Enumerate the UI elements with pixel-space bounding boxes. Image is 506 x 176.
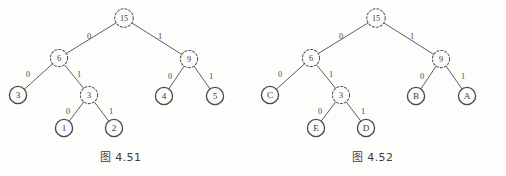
- edge-label-m6-m3: 1: [329, 70, 333, 79]
- edge-label-n15-n6: 0: [87, 32, 91, 41]
- edge-label-n9-n4: 0: [168, 72, 172, 81]
- edge-label-n3b-n2: 1: [109, 107, 113, 116]
- tree-node-label-m15: 15: [372, 14, 380, 23]
- tree-edge-n15-n9: [132, 23, 181, 54]
- tree-node-label-mD: D: [363, 123, 370, 133]
- tree-edge-m9-mA: [446, 66, 462, 88]
- tree-node-label-n3b: 3: [87, 91, 91, 100]
- edge-label-n15-n9: 1: [158, 32, 162, 41]
- edge-label-m15-m9: 1: [410, 32, 414, 41]
- tree-node-label-mC: C: [267, 90, 273, 100]
- binary-tree-diagram-layer: 010101011569334512010101011569C3BAED: [0, 0, 506, 176]
- edge-label-m9-mA: 1: [461, 72, 465, 81]
- edge-label-m9-mB: 0: [420, 72, 424, 81]
- edge-label-m6-mC: 0: [278, 70, 282, 79]
- tree-node-label-n6: 6: [57, 54, 61, 63]
- tree-edge-m3-mE: [321, 102, 335, 121]
- tree-figure-4-51: 010101011569334512: [9, 9, 223, 137]
- figure-canvas: 010101011569334512010101011569C3BAED 图 4…: [0, 0, 506, 176]
- tree-edge-m15-m6: [319, 23, 368, 53]
- tree-edge-m3-mD: [346, 102, 360, 121]
- tree-node-label-m9: 9: [439, 55, 443, 64]
- tree-node-label-mA: A: [464, 91, 471, 101]
- tree-node-label-n1: 1: [62, 123, 67, 133]
- edge-label-n6-n3a: 0: [26, 70, 30, 79]
- tree-node-label-mB: B: [413, 91, 419, 101]
- tree-figure-4-52: 010101011569C3BAED: [261, 9, 475, 137]
- tree-edge-n3b-n1: [69, 102, 83, 121]
- edge-label-n3b-n1: 0: [66, 107, 70, 116]
- tree-node-label-n5: 5: [213, 91, 218, 101]
- tree-node-label-n15: 15: [120, 14, 128, 23]
- tree-node-label-m3: 3: [339, 91, 343, 100]
- tree-edge-n15-n6: [67, 23, 116, 53]
- tree-node-label-m6: 6: [309, 54, 313, 63]
- caption-text-4-52: 图 4.52: [352, 151, 393, 164]
- edge-label-m3-mD: 1: [361, 107, 365, 116]
- tree-node-label-n9: 9: [187, 55, 191, 64]
- tree-edge-n3b-n2: [94, 102, 108, 121]
- tree-node-label-mE: E: [313, 123, 319, 133]
- tree-edge-m15-m9: [384, 23, 433, 54]
- tree-node-label-n3a: 3: [16, 90, 21, 100]
- edge-label-n9-n5: 1: [209, 72, 213, 81]
- edge-label-m3-mE: 0: [318, 107, 322, 116]
- tree-node-label-n4: 4: [162, 91, 167, 101]
- tree-node-label-n2: 2: [112, 123, 117, 133]
- caption-text-4-51: 图 4.51: [100, 151, 141, 164]
- edge-label-m15-m6: 0: [339, 32, 343, 41]
- edge-label-n6-n3b: 1: [77, 70, 81, 79]
- figure-caption-4-51: 图 4.51: [100, 148, 141, 164]
- tree-edge-n9-n5: [194, 66, 210, 88]
- figure-caption-4-52: 图 4.52: [352, 148, 393, 164]
